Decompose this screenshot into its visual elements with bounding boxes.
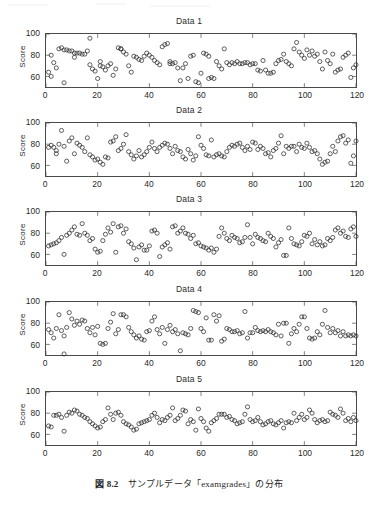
data-point — [52, 242, 56, 246]
data-point — [323, 243, 327, 247]
data-point — [62, 352, 66, 356]
data-point — [263, 152, 267, 156]
data-point — [318, 60, 322, 64]
data-point — [331, 235, 335, 239]
data-point — [134, 154, 138, 158]
data-point — [147, 418, 151, 422]
data-point — [139, 337, 143, 341]
data-point — [294, 243, 298, 247]
data-point — [103, 68, 107, 72]
data-point — [150, 229, 154, 233]
y-tick-label: 80 — [16, 51, 40, 60]
data-point — [103, 155, 107, 159]
tick-marks-group — [46, 34, 356, 87]
data-point — [320, 244, 324, 248]
data-point — [155, 328, 159, 332]
data-point — [204, 153, 208, 157]
data-point — [103, 341, 107, 345]
y-tick-label: 80 — [16, 319, 40, 328]
data-point — [116, 225, 120, 229]
data-point — [318, 333, 322, 337]
data-point — [98, 341, 102, 345]
data-point — [194, 154, 198, 158]
data-point — [142, 338, 146, 342]
data-point — [145, 419, 149, 423]
tick-marks-group — [46, 212, 356, 265]
data-point — [75, 232, 79, 236]
data-point — [284, 421, 288, 425]
data-point — [222, 155, 226, 159]
data-point — [145, 248, 149, 252]
data-point — [139, 58, 143, 62]
data-point — [191, 233, 195, 237]
data-point — [235, 236, 239, 240]
data-point — [240, 420, 244, 424]
data-point — [152, 315, 156, 319]
data-point — [338, 135, 342, 139]
data-point — [49, 331, 53, 335]
data-point — [85, 49, 89, 53]
y-tick-label: 60 — [16, 73, 40, 82]
data-point — [222, 231, 226, 235]
data-point — [114, 67, 118, 71]
data-points-group — [46, 36, 358, 85]
data-point — [106, 406, 110, 410]
data-point — [325, 419, 329, 423]
data-point — [54, 66, 58, 70]
data-point — [310, 411, 314, 415]
x-tick-label: 120 — [345, 449, 369, 458]
data-point — [331, 144, 335, 148]
data-point — [168, 323, 172, 327]
data-point — [341, 330, 345, 334]
data-point — [297, 244, 301, 248]
data-point — [145, 150, 149, 154]
data-point — [183, 62, 187, 66]
subplot-data-5: Data 5 Score 100 80 60 — [0, 358, 378, 463]
data-point — [111, 418, 115, 422]
data-point — [129, 153, 133, 157]
data-point — [240, 240, 244, 244]
data-point — [54, 326, 58, 330]
data-point — [307, 231, 311, 235]
data-point — [59, 415, 63, 419]
data-point — [96, 324, 100, 328]
data-point — [243, 235, 247, 239]
data-point — [65, 325, 69, 329]
data-point — [52, 61, 56, 65]
data-point — [204, 316, 208, 320]
data-point — [328, 152, 332, 156]
data-point — [170, 225, 174, 229]
data-point — [230, 418, 234, 422]
data-point — [178, 150, 182, 154]
data-point — [90, 325, 94, 329]
data-point — [77, 322, 81, 326]
data-point — [217, 234, 221, 238]
data-point — [263, 240, 267, 244]
data-point — [261, 329, 265, 333]
data-point — [341, 411, 345, 415]
data-point — [173, 144, 177, 148]
data-point — [137, 149, 141, 153]
data-point — [261, 58, 265, 62]
data-point — [70, 317, 74, 321]
data-point — [101, 342, 105, 346]
data-point — [170, 406, 174, 410]
data-point — [134, 258, 138, 262]
data-point — [238, 332, 242, 336]
data-point — [165, 328, 169, 332]
data-point — [96, 250, 100, 254]
data-point — [196, 407, 200, 411]
data-point — [313, 336, 317, 340]
data-point — [232, 330, 236, 334]
data-point — [302, 315, 306, 319]
data-point — [80, 318, 84, 322]
data-point — [165, 42, 169, 46]
data-point — [251, 331, 255, 335]
data-point — [318, 157, 322, 161]
data-point — [354, 139, 358, 143]
data-point — [191, 53, 195, 57]
x-tick-label: 80 — [241, 449, 265, 458]
x-tick-label: 100 — [293, 449, 317, 458]
data-point — [354, 63, 358, 67]
data-point — [93, 333, 97, 337]
